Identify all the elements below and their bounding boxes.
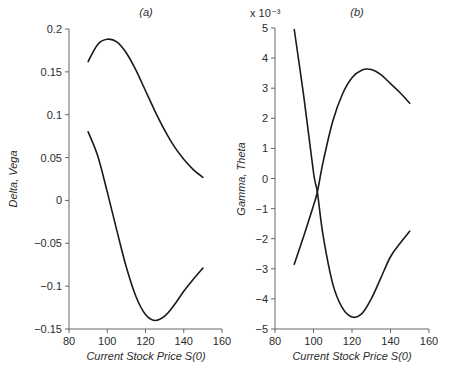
y-tick-label: 0.05 — [41, 152, 62, 164]
y-tick-label: −3 — [255, 263, 268, 275]
y-tick-label: −4 — [255, 293, 268, 305]
y-tick-label: 0.1 — [47, 109, 62, 121]
panel-b-y-label: Gamma, Theta — [235, 142, 247, 215]
y-tick-label: −0.05 — [34, 237, 62, 249]
panel-b-y-ticks: 543210−1−2−3−4−5 — [255, 22, 275, 335]
panel-a-curves — [88, 39, 203, 320]
y-tick-label: 3 — [262, 82, 268, 94]
panel-b-curves — [294, 30, 410, 318]
panel-b: (b) x 10⁻³ 543210−1−2−3−4−5 801001201401… — [235, 6, 438, 362]
x-tick-label: 80 — [63, 335, 75, 347]
y-tick-label: −0.15 — [34, 323, 62, 335]
series-curve — [88, 132, 203, 321]
series-curve — [294, 69, 410, 264]
y-tick-label: −0.1 — [40, 280, 62, 292]
x-tick-label: 120 — [343, 335, 361, 347]
y-tick-label: −5 — [255, 323, 268, 335]
x-tick-label: 80 — [269, 335, 281, 347]
x-tick-label: 160 — [213, 335, 231, 347]
panel-b-title: (b) — [350, 6, 364, 18]
x-tick-label: 140 — [175, 335, 193, 347]
panel-a-y-label: Delta, Vega — [7, 150, 19, 207]
y-tick-label: 0.2 — [47, 23, 62, 35]
series-curve — [88, 39, 203, 177]
x-tick-label: 120 — [136, 335, 154, 347]
y-tick-label: 4 — [262, 52, 268, 64]
panel-a: (a) 0.20.150.10.050−0.05−0.1−0.15 801001… — [7, 6, 231, 362]
y-tick-label: 0 — [56, 194, 62, 206]
series-curve — [294, 30, 410, 318]
x-tick-label: 100 — [98, 335, 116, 347]
panel-b-x-ticks: 80100120140160 — [269, 329, 438, 347]
panel-a-x-ticks: 80100120140160 — [63, 329, 231, 347]
y-tick-label: 5 — [262, 22, 268, 34]
chart-canvas: (a) 0.20.150.10.050−0.05−0.1−0.15 801001… — [0, 0, 452, 374]
y-tick-label: 1 — [262, 142, 268, 154]
y-tick-label: 2 — [262, 112, 268, 124]
y-tick-label: −2 — [255, 233, 268, 245]
y-tick-label: 0.15 — [41, 66, 62, 78]
panel-a-x-label: Current Stock Price S(0) — [86, 350, 206, 362]
x-tick-label: 100 — [304, 335, 322, 347]
x-tick-label: 160 — [420, 335, 438, 347]
y-tick-label: −1 — [255, 203, 268, 215]
panel-b-x-label: Current Stock Price S(0) — [292, 350, 412, 362]
y-tick-label: 0 — [262, 173, 268, 185]
panel-a-title: (a) — [139, 6, 153, 18]
panel-a-y-ticks: 0.20.150.10.050−0.05−0.1−0.15 — [34, 23, 69, 335]
panel-b-multiplier: x 10⁻³ — [250, 7, 281, 19]
x-tick-label: 140 — [381, 335, 399, 347]
